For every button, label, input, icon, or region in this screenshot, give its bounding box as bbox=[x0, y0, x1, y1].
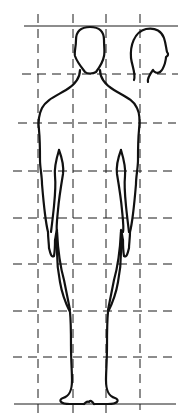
figure-right-inner-arm-b bbox=[117, 150, 124, 232]
figure-left-inner-arm-b bbox=[57, 150, 64, 232]
figure-left-outline bbox=[39, 70, 84, 404]
figure-right-outline bbox=[94, 70, 140, 404]
figure-head bbox=[75, 27, 105, 74]
diagram-svg bbox=[0, 0, 190, 420]
front-figure bbox=[39, 27, 140, 404]
proportion-diagram: Human figure proportions bbox=[0, 0, 190, 420]
